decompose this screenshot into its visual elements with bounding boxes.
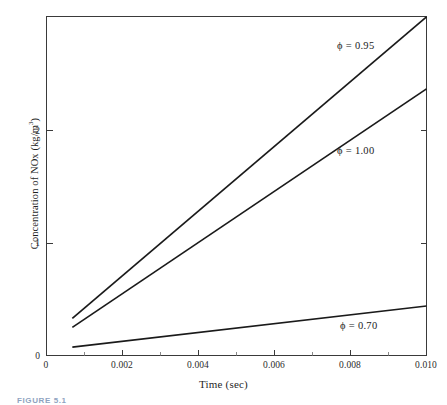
x-axis-minor-ticks <box>85 352 389 356</box>
x-tick-label: 0.002 <box>111 360 133 370</box>
series-line-phi-0-95 <box>72 17 426 319</box>
y-axis-title: Concentration of NOx (kg/m3) <box>29 84 40 284</box>
x-tick-label: 0.008 <box>339 360 361 370</box>
x-tick-label: 0.010 <box>415 360 437 370</box>
y-axis-title-tail: ) <box>29 118 40 122</box>
y-tick-label: 0 <box>28 351 40 361</box>
figure-container: 0 0.002 0.004 0.006 0.008 0.010 0 1 2 Ti… <box>0 0 447 405</box>
x-tick-label: 0 <box>44 360 49 370</box>
x-axis-title: Time (sec) <box>0 378 447 390</box>
figure-caption: FIGURE 5.1 <box>17 396 67 405</box>
series-line-phi-1-00 <box>72 89 426 328</box>
plot-frame <box>47 17 427 356</box>
annotation-phi-0-70: ϕ = 0.70 <box>340 320 377 331</box>
y-axis-title-base: Concentration of NOx (kg/m <box>29 125 40 249</box>
annotation-phi-1-00: ϕ = 1.00 <box>337 145 374 156</box>
x-tick-label: 0.004 <box>187 360 209 370</box>
x-tick-label: 0.006 <box>263 360 285 370</box>
annotation-phi-0-95: ϕ = 0.95 <box>337 40 374 51</box>
line-chart-plot <box>0 0 447 405</box>
y-axis-title-exponent: 3 <box>27 121 35 125</box>
